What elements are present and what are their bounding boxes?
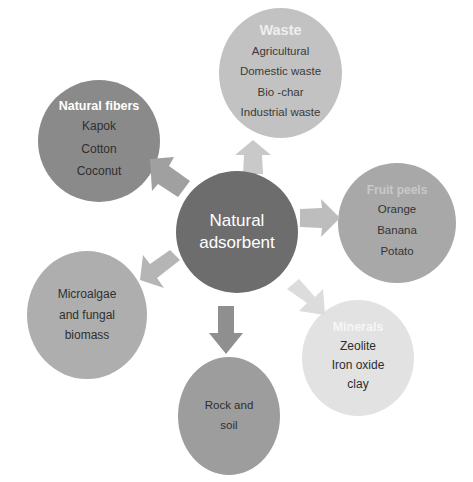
node-minerals-title: Minerals bbox=[333, 321, 384, 334]
node-natural-fibers[interactable]: Natural fibers Kapok Cotton Coconut bbox=[38, 80, 160, 202]
node-rock-and-soil-item: soil bbox=[220, 416, 237, 436]
arrow-right-icon bbox=[300, 199, 340, 237]
node-natural-fibers-item: Cotton bbox=[81, 138, 116, 160]
node-natural-adsorbent-line: Natural bbox=[210, 210, 265, 232]
node-minerals-item: Iron oxide bbox=[332, 356, 385, 375]
arrow-up-left-icon bbox=[148, 155, 192, 197]
node-microalgae-item: Microalgae bbox=[58, 284, 117, 305]
node-fruit-peels-item: Orange bbox=[378, 199, 416, 220]
node-rock-and-soil[interactable]: Rock and soil bbox=[178, 357, 280, 475]
node-fruit-peels-title: Fruit peels bbox=[367, 184, 428, 196]
node-fruit-peels-item: Potato bbox=[380, 241, 413, 262]
node-rock-and-soil-item: Rock and bbox=[205, 396, 254, 416]
node-natural-adsorbent[interactable]: Natural adsorbent bbox=[176, 171, 298, 293]
node-natural-fibers-item: Coconut bbox=[77, 160, 122, 182]
node-waste[interactable]: Waste Agricultural Domestic waste Bio -c… bbox=[219, 8, 342, 138]
node-minerals-item: clay bbox=[347, 375, 368, 394]
node-microalgae[interactable]: Microalgae and fungal biomass bbox=[27, 251, 147, 379]
node-natural-fibers-title: Natural fibers bbox=[59, 100, 140, 113]
natural-adsorbent-diagram: Waste Agricultural Domestic waste Bio -c… bbox=[0, 0, 473, 482]
node-natural-adsorbent-line: adsorbent bbox=[199, 232, 275, 254]
node-microalgae-item: and fungal bbox=[59, 305, 115, 326]
node-waste-item: Agricultural bbox=[252, 41, 310, 61]
arrow-down-icon bbox=[209, 306, 243, 354]
node-waste-title: Waste bbox=[259, 23, 301, 38]
node-microalgae-item: biomass bbox=[65, 325, 110, 346]
node-waste-item: Domestic waste bbox=[240, 61, 321, 81]
node-waste-item: Bio -char bbox=[257, 82, 303, 102]
node-fruit-peels-item: Banana bbox=[377, 220, 417, 241]
node-minerals-item: Zeolite bbox=[340, 337, 376, 356]
node-fruit-peels[interactable]: Fruit peels Orange Banana Potato bbox=[338, 163, 456, 283]
node-natural-fibers-item: Kapok bbox=[82, 115, 116, 137]
arrow-up-icon bbox=[233, 140, 273, 174]
node-waste-item: Industrial waste bbox=[241, 102, 321, 122]
arrow-down-right-icon bbox=[285, 277, 327, 319]
arrow-down-left-icon bbox=[138, 250, 182, 292]
